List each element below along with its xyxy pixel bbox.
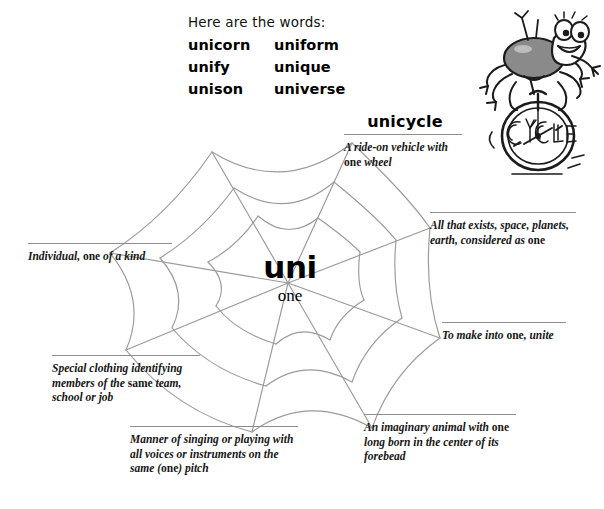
word-item: universe (274, 81, 345, 97)
definition-rule (52, 355, 200, 356)
definition-text-unique: Individual, one of a kind (28, 249, 178, 264)
definition-rule (442, 322, 566, 323)
definition-text-part1: All that exists, space, planets, earth, … (430, 219, 569, 246)
definition-text-unicycle: A ride-on vehicle with one wheel (344, 140, 466, 169)
definition-rule (28, 243, 172, 244)
definition-rule (130, 426, 298, 427)
definition-uniform: Special clothing identifying members of … (52, 355, 212, 405)
spider-head (552, 12, 589, 65)
word-list-columns: unicorn unify unison uniform unique univ… (188, 37, 378, 97)
definition-bold-word: one (161, 462, 178, 474)
definition-bold-word: same (128, 377, 153, 389)
definition-bold-word: one (344, 156, 361, 168)
definition-unify: To make into one, unite (442, 322, 582, 343)
definition-text-part2: , unite (524, 329, 554, 341)
definition-text-uniform: Special clothing identifying members of … (52, 361, 212, 405)
definition-unicorn: An imaginary animal with one long born i… (364, 414, 524, 464)
word-item: unison (188, 81, 260, 97)
definition-text-universe: All that exists, space, planets, earth, … (430, 218, 580, 247)
word-item: unify (188, 59, 260, 75)
word-list-column-left: unicorn unify unison (188, 37, 260, 97)
word-item: unique (274, 59, 345, 75)
definition-text-part2: long born in the center of its forebead (364, 436, 499, 463)
word-list: Here are the words: unicorn unify unison… (188, 14, 378, 97)
definition-text-unify: To make into one, unite (442, 328, 582, 343)
definition-rule (430, 212, 576, 213)
worksheet-page: Here are the words: unicorn unify unison… (0, 0, 604, 509)
definition-bold-word: one (83, 250, 100, 262)
definition-text-part1: Individual, (28, 250, 83, 262)
definition-universe: All that exists, space, planets, earth, … (430, 212, 580, 247)
definition-rule (364, 414, 516, 415)
web-center-root: uni one (240, 252, 340, 306)
definition-unison: Manner of singing or playing with all vo… (130, 426, 305, 476)
root-meaning: one (240, 286, 340, 306)
definition-text-part2: wheel (361, 156, 391, 168)
definition-rule (344, 134, 462, 135)
definition-text-part2: ) pitch (178, 462, 208, 474)
definition-bold-word: one (506, 329, 523, 341)
root-word: uni (240, 252, 340, 283)
definition-text-part1: Manner of singing or playing with all vo… (130, 433, 293, 474)
spider-antennae (515, 11, 538, 40)
definition-unicycle: unicycle A ride-on vehicle with one whee… (344, 112, 466, 169)
definition-bold-word: one (492, 421, 509, 433)
definition-heading-unicycle: unicycle (344, 112, 466, 131)
definition-text-part1: To make into (442, 329, 506, 341)
word-list-intro: Here are the words: (188, 14, 378, 30)
definition-text-part1: An imaginary animal with (364, 421, 492, 433)
definition-text-unison: Manner of singing or playing with all vo… (130, 432, 305, 476)
definition-bold-word: one (528, 234, 545, 246)
definition-text-part1: A ride-on vehicle with (344, 141, 448, 153)
definition-text-part2: of a kind (100, 250, 145, 262)
definition-text-unicorn: An imaginary animal with one long born i… (364, 420, 524, 464)
definition-unique: Individual, one of a kind (28, 243, 178, 264)
word-item: unicorn (188, 37, 260, 53)
word-list-column-right: uniform unique universe (274, 37, 345, 97)
word-item: uniform (274, 37, 345, 53)
spider-on-unicycle-illustration (476, 0, 604, 186)
